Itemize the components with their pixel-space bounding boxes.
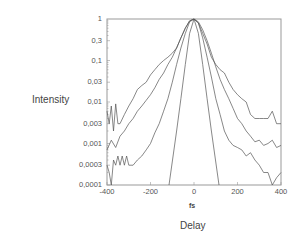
series-line-2: [107, 19, 281, 150]
series-line-4: [169, 19, 219, 185]
data-series: [107, 19, 281, 185]
series-line-1: [107, 19, 281, 131]
plot-area: [0, 0, 302, 242]
series-line-3: [107, 19, 281, 185]
